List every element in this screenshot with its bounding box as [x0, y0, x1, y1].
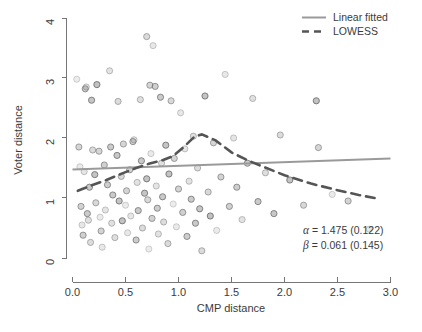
data-point	[78, 203, 84, 209]
data-point	[115, 98, 121, 104]
x-tick-label-3: 1.5	[224, 286, 239, 298]
data-point	[110, 192, 116, 198]
x-tick-label-1: 0.5	[118, 286, 133, 298]
alpha-value: = 1.475 (0.122)	[309, 224, 383, 236]
data-point	[166, 171, 172, 177]
data-point	[119, 218, 125, 224]
data-point	[214, 227, 220, 233]
annotation-alpha: α = 1.475 (0.122)	[303, 224, 383, 236]
data-point	[313, 98, 319, 104]
data-point	[149, 215, 155, 221]
data-point	[96, 148, 102, 154]
data-point	[125, 230, 131, 236]
data-point	[146, 246, 152, 252]
data-point	[80, 232, 86, 238]
data-point	[102, 207, 108, 213]
data-point	[255, 199, 261, 205]
data-point	[277, 132, 283, 138]
data-point	[128, 213, 134, 219]
data-point	[85, 217, 91, 223]
data-point	[138, 158, 144, 164]
data-point	[163, 142, 169, 148]
y-tick-label-4: 4	[44, 19, 56, 25]
data-point	[222, 71, 228, 77]
data-point	[123, 188, 129, 194]
data-point	[170, 201, 176, 207]
data-point	[135, 208, 141, 214]
data-point	[139, 225, 145, 231]
data-point	[152, 83, 158, 89]
data-point	[137, 97, 143, 103]
y-tick-label-1: 1	[44, 199, 56, 205]
data-point	[192, 220, 198, 226]
data-point	[93, 200, 99, 206]
data-point	[173, 224, 179, 230]
data-point	[271, 211, 277, 217]
x-tick-label-2: 1.0	[171, 286, 186, 298]
data-point	[88, 97, 94, 103]
legend-label-lowess: LOWESS	[333, 25, 378, 37]
data-point	[107, 68, 113, 74]
data-point	[145, 197, 151, 203]
data-point	[329, 191, 335, 197]
data-point	[104, 182, 110, 188]
data-point	[84, 211, 90, 217]
data-point	[202, 93, 208, 99]
data-point	[160, 194, 166, 200]
x-tick-label-5: 2.5	[330, 286, 345, 298]
data-point	[92, 172, 98, 178]
data-point	[131, 137, 137, 143]
data-point	[315, 145, 321, 151]
data-point	[150, 43, 156, 49]
data-point	[180, 209, 186, 215]
data-point	[94, 82, 100, 88]
data-point	[345, 198, 351, 204]
data-point	[184, 233, 190, 239]
data-point	[134, 179, 140, 185]
data-point	[112, 235, 118, 241]
data-point	[165, 241, 171, 247]
data-point	[161, 219, 167, 225]
data-point	[178, 110, 184, 116]
data-point	[148, 151, 154, 157]
data-point	[205, 189, 211, 195]
data-point	[188, 196, 194, 202]
data-point	[300, 202, 306, 208]
data-point	[207, 213, 213, 219]
data-point	[197, 206, 203, 212]
x-axis-title: CMP distance	[197, 302, 265, 314]
data-point	[99, 244, 105, 250]
scatter-plot-figure: 01234 Voter distance 0.00.51.01.52.02.53…	[0, 0, 422, 332]
data-point	[141, 190, 147, 196]
data-point	[97, 214, 103, 220]
data-point	[234, 184, 240, 190]
data-point	[239, 217, 245, 223]
y-tick-label-0: 0	[44, 259, 56, 265]
data-point	[98, 228, 104, 234]
data-point	[262, 170, 268, 176]
data-point	[155, 231, 161, 237]
y-axis-title: Voter distance	[12, 105, 24, 175]
x-tick-label-6: 3.0	[383, 286, 398, 298]
data-point	[231, 135, 237, 141]
beta-value: = 0.061 (0.145)	[309, 239, 383, 251]
data-point	[122, 202, 128, 208]
data-point	[168, 98, 174, 104]
data-point	[101, 162, 107, 168]
y-tick-label-2: 2	[44, 139, 56, 145]
data-point	[153, 183, 159, 189]
data-point	[114, 152, 120, 158]
data-point	[120, 141, 126, 147]
data-point	[74, 76, 80, 82]
x-tick-label-0: 0.0	[65, 286, 80, 298]
data-point	[87, 239, 93, 245]
data-point	[79, 222, 85, 228]
x-tick-label-4: 2.0	[277, 286, 292, 298]
data-point	[76, 144, 82, 150]
data-point	[133, 237, 139, 243]
data-point	[226, 203, 232, 209]
data-point	[287, 177, 293, 183]
data-point	[175, 186, 181, 192]
data-point	[144, 34, 150, 40]
data-point	[83, 84, 89, 90]
